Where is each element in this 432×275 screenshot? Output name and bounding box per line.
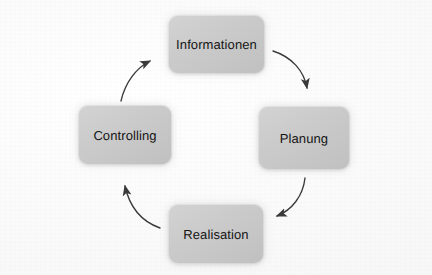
arrow-planung-realisation: [277, 178, 305, 216]
node-informationen[interactable]: Informationen: [168, 15, 265, 74]
arrow-controlling-informationen: [121, 61, 150, 101]
node-realisation[interactable]: Realisation: [168, 204, 264, 264]
diagram-canvas: Informationen Planung Realisation Contro…: [0, 0, 432, 275]
node-realisation-label: Realisation: [183, 228, 248, 241]
node-planung-label: Planung: [280, 132, 328, 145]
node-planung[interactable]: Planung: [258, 106, 350, 170]
arrow-realisation-controlling: [125, 186, 160, 228]
arrow-informationen-planung: [273, 51, 307, 88]
node-controlling-label: Controlling: [93, 129, 156, 142]
node-controlling[interactable]: Controlling: [78, 105, 172, 165]
node-informationen-label: Informationen: [176, 38, 257, 51]
